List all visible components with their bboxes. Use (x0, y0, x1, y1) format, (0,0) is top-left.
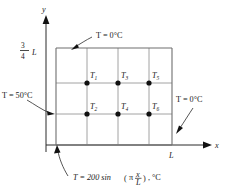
bottom-formula-suffix: , °C (148, 173, 161, 182)
bottom-boundary-formula: T = 200 sin ( π x L ) , °C (73, 170, 161, 187)
left-boundary-annotation: T = 50°C (2, 91, 55, 116)
node-dot-T3 (115, 80, 120, 85)
bottom-leader-arrowhead (54, 145, 61, 154)
node-label-T3: T3 (121, 71, 129, 81)
right-leader-arrowhead (176, 126, 183, 135)
right-leader-line (180, 108, 193, 128)
x-axis-label: x (214, 141, 219, 150)
domain-border (56, 48, 172, 145)
y-tick-denominator: 4 (21, 52, 25, 61)
bottom-formula-frac-denominator: L (135, 178, 141, 187)
y-tick-numerator: 3 (21, 41, 25, 50)
x-axis-arrowhead (203, 142, 212, 149)
bottom-leader-line (58, 151, 68, 176)
x-tick-label-L: L (168, 151, 174, 160)
bottom-formula-pi: π (129, 173, 134, 182)
node-dot-T5 (146, 80, 151, 85)
y-tick-unit: L (31, 48, 37, 57)
left-boundary-label: T = 50°C (2, 91, 33, 100)
right-boundary-annotation: T = 0°C (176, 95, 203, 134)
node-label-T4: T4 (121, 102, 129, 112)
node-dot-T4 (115, 111, 120, 116)
left-leader-line (27, 100, 50, 113)
right-boundary-label: T = 0°C (176, 95, 203, 104)
bottom-boundary-annotation: T = 200 sin ( π x L ) , °C (54, 145, 161, 187)
left-leader-arrowhead (47, 111, 55, 116)
y-axis-arrowhead (43, 15, 50, 24)
node-dot-T2 (84, 111, 89, 116)
y-axis-label: y (41, 5, 46, 14)
node-dot-T1 (84, 80, 89, 85)
node-label-T6: T6 (152, 102, 160, 112)
node-label-T2: T2 (90, 102, 98, 112)
node-dot-T6 (146, 111, 151, 116)
bottom-formula-close-paren: ) (143, 174, 146, 183)
heat-conduction-grid-figure: y x 3 4 L T1 T3 T5 T2 T4 (0, 0, 231, 195)
top-boundary-label: T = 0°C (96, 31, 123, 40)
bottom-formula-prefix: T = 200 sin (73, 173, 111, 182)
grid-vertical-lines (87, 48, 149, 145)
node-label-T5: T5 (152, 71, 160, 81)
bottom-formula-open-paren: ( (124, 174, 127, 183)
node-label-T1: T1 (90, 71, 98, 81)
y-tick-label-three-quarters-L: 3 4 L (20, 41, 37, 61)
axis-group (43, 15, 212, 152)
top-boundary-annotation: T = 0°C (71, 31, 123, 50)
